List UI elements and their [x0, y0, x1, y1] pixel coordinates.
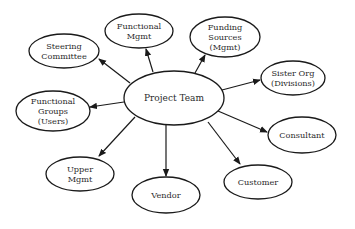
arrow-to-customer: [208, 122, 240, 164]
arrow-to-upper-mgmt: [99, 117, 135, 156]
functional-groups-label-line: Groups: [38, 106, 68, 116]
node-consultant: Consultant: [268, 117, 336, 153]
upper-mgmt-label-line: Mgmt: [68, 174, 93, 184]
steering-committee-label-line: Committee: [41, 51, 87, 61]
functional-groups-label-line: Functional: [31, 96, 76, 106]
functional-groups-label-line: (Users): [38, 116, 68, 126]
vendor-label-line: Vendor: [150, 190, 180, 200]
steering-committee-label-line: Steering: [46, 41, 82, 51]
arrow-to-functional-groups: [90, 102, 124, 107]
center-node-group: Project Team: [124, 71, 224, 125]
node-upper-mgmt: UpperMgmt: [46, 157, 114, 191]
funding-sources-label-line: (Mgmt): [209, 42, 240, 52]
upper-mgmt-label-line: Upper: [67, 164, 93, 174]
functional-mgmt-label-line: Mgmt: [127, 31, 152, 41]
arrow-to-functional-mgmt: [146, 49, 153, 72]
funding-sources-label-line: Funding: [208, 22, 243, 32]
node-sister-org: Sister Org(Divisions): [261, 61, 325, 95]
node-steering-committee: SteeringCommittee: [29, 34, 99, 68]
sister-org-label-line: Sister Org: [272, 68, 315, 78]
sister-org-label-line: (Divisions): [271, 78, 315, 88]
node-project-team: Project Team: [124, 71, 224, 125]
arrow-to-consultant: [218, 111, 267, 132]
node-functional-mgmt: FunctionalMgmt: [105, 14, 173, 48]
functional-mgmt-label-line: Functional: [117, 21, 162, 31]
project-team-label-line: Project Team: [144, 93, 204, 103]
node-functional-groups: FunctionalGroups(Users): [16, 91, 90, 131]
node-customer: Customer: [224, 165, 292, 199]
node-funding-sources: FundingSources(Mgmt): [190, 17, 260, 57]
customer-label-line: Customer: [238, 177, 279, 187]
stakeholder-diagram: SteeringCommitteeFunctionalMgmtFundingSo…: [0, 0, 355, 229]
node-vendor: Vendor: [132, 177, 200, 213]
consultant-label-line: Consultant: [279, 130, 325, 140]
arrow-to-sister-org: [222, 80, 260, 90]
arrow-to-steering-committee: [99, 59, 130, 83]
arrow-to-funding-sources: [195, 55, 205, 73]
funding-sources-label-line: Sources: [208, 32, 241, 42]
